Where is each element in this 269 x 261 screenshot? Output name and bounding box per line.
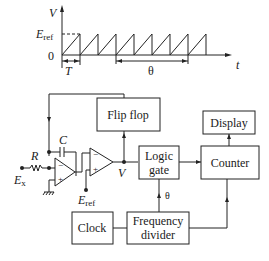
arrow-right-icon bbox=[74, 59, 79, 63]
output-node-label: V bbox=[118, 166, 127, 180]
arrow-left-icon bbox=[63, 59, 68, 63]
resistor-label: R bbox=[30, 149, 39, 163]
eref-terminal bbox=[84, 188, 88, 192]
integrator-output-wire bbox=[75, 153, 90, 172]
junction-node bbox=[47, 166, 51, 170]
theta-signal-label: θ bbox=[165, 190, 170, 201]
minus-sign: − bbox=[93, 149, 98, 159]
arrow-down-icon bbox=[47, 117, 51, 122]
theta-interval-label: θ bbox=[148, 64, 154, 78]
arrow-up-icon bbox=[157, 193, 161, 198]
period-label: T bbox=[65, 64, 73, 78]
input-label: Ex bbox=[13, 173, 26, 188]
logic-gate-label-line2: gate bbox=[149, 163, 169, 177]
plus-sign: + bbox=[58, 174, 63, 184]
y-axis-arrow-icon bbox=[60, 5, 64, 12]
clock-label: Clock bbox=[78, 221, 107, 235]
diagram-canvas: V t Eref 0 T θ Flip flop R bbox=[0, 0, 269, 261]
arrow-left-icon bbox=[117, 59, 122, 63]
arrow-up-icon bbox=[227, 134, 231, 139]
x-axis-arrow-icon bbox=[225, 53, 232, 57]
arrow-right-icon bbox=[182, 59, 187, 63]
y-axis-label: V bbox=[49, 6, 58, 20]
frequency-divider-label-line1: Frequency bbox=[133, 214, 184, 228]
x-axis-label: t bbox=[236, 58, 240, 72]
minus-sign: − bbox=[58, 160, 63, 170]
capacitor-label: C bbox=[59, 133, 68, 147]
eref-wire bbox=[86, 170, 90, 190]
plus-sign: + bbox=[93, 164, 98, 174]
ground-wire bbox=[49, 180, 55, 192]
arrow-up-icon bbox=[225, 197, 229, 202]
resistor-symbol bbox=[30, 165, 42, 171]
arrow-up-icon bbox=[122, 133, 126, 138]
arrow-right-icon bbox=[196, 160, 201, 164]
frequency-divider-label-line2: divider bbox=[141, 228, 175, 242]
logic-gate-label-line1: Logic bbox=[145, 149, 173, 163]
display-label: Display bbox=[210, 116, 247, 130]
zero-label: 0 bbox=[48, 49, 54, 63]
eref-level-label: Eref bbox=[35, 27, 53, 42]
sawtooth-trace bbox=[62, 34, 206, 55]
sawtooth-waveform: V t Eref 0 T θ bbox=[35, 5, 240, 78]
integrating-adc-circuit: Flip flop R Ex C − + bbox=[13, 94, 259, 244]
divider-to-counter-wire bbox=[189, 179, 227, 228]
comparator-reference-label: Eref bbox=[77, 193, 95, 208]
counter-label: Counter bbox=[211, 156, 250, 170]
flip-flop-label: Flip flop bbox=[107, 108, 149, 122]
